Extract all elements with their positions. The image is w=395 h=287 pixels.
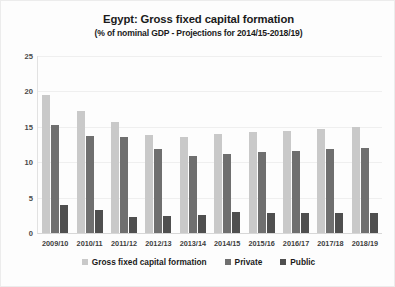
x-axis-tick-label: 2015/16 (248, 239, 274, 248)
bar (232, 212, 240, 233)
bar (95, 210, 103, 233)
bar-group: 2014/15 (210, 56, 244, 233)
y-axis-tick-label: 20 (25, 87, 33, 96)
bar-groups: 2009/102010/112011/122012/132013/142014/… (38, 56, 382, 233)
plot-area: 0510152025 2009/102010/112011/122012/132… (37, 56, 382, 234)
bar (60, 205, 68, 233)
legend-item[interactable]: Gross fixed capital formation (82, 257, 207, 267)
y-axis-tick-label: 0 (29, 229, 33, 238)
legend-swatch (280, 259, 286, 265)
bar (361, 148, 369, 233)
x-axis-tick-label: 2010/11 (77, 239, 103, 248)
chart-subtitle: (% of nominal GDP - Projections for 2014… (1, 27, 395, 40)
legend-label: Private (235, 257, 263, 267)
y-axis-tick-label: 5 (29, 193, 33, 202)
bar-group: 2012/13 (141, 56, 175, 233)
x-axis-tick-label: 2018/19 (352, 239, 378, 248)
chart-figure: Egypt: Gross fixed capital formation (% … (0, 0, 395, 287)
bar (51, 125, 59, 233)
x-axis-tick-label: 2011/12 (111, 239, 137, 248)
bar-group: 2009/10 (38, 56, 72, 233)
bar (249, 132, 257, 233)
bar-group: 2010/11 (72, 56, 106, 233)
bar (111, 122, 119, 233)
bar (292, 151, 300, 233)
x-axis-tick-label: 2016/17 (283, 239, 309, 248)
legend-label: Gross fixed capital formation (92, 257, 207, 267)
bar (335, 213, 343, 233)
y-axis-tick-label: 15 (25, 122, 33, 131)
bar-group: 2015/16 (244, 56, 278, 233)
bar-group: 2011/12 (107, 56, 141, 233)
bar (120, 137, 128, 233)
bar-group: 2017/18 (313, 56, 347, 233)
chart-title-block: Egypt: Gross fixed capital formation (% … (1, 12, 395, 40)
x-axis-tick-label: 2013/14 (180, 239, 206, 248)
x-axis-tick-label: 2009/10 (42, 239, 68, 248)
y-axis-tick-label: 10 (25, 158, 33, 167)
bar (42, 95, 50, 233)
bar (326, 149, 334, 233)
x-axis-tick-label: 2014/15 (214, 239, 240, 248)
bar-group: 2013/14 (176, 56, 210, 233)
bar-group: 2016/17 (279, 56, 313, 233)
bar (283, 131, 291, 233)
bar (223, 154, 231, 233)
x-axis-tick-label: 2012/13 (145, 239, 171, 248)
bar (301, 213, 309, 233)
x-axis-tick-label: 2017/18 (317, 239, 343, 248)
bar (317, 129, 325, 233)
bar (154, 149, 162, 233)
bar (163, 216, 171, 233)
bar (86, 136, 94, 233)
bar (258, 152, 266, 233)
bar (352, 127, 360, 233)
bar-group: 2018/19 (348, 56, 382, 233)
legend-swatch (225, 259, 231, 265)
page-title: Egypt: Gross fixed capital formation (1, 12, 395, 26)
bar (370, 213, 378, 233)
bar (189, 156, 197, 233)
bar (214, 134, 222, 233)
y-axis-tick-label: 25 (25, 52, 33, 61)
legend-label: Public (290, 257, 315, 267)
legend-item[interactable]: Private (225, 257, 263, 267)
bar (77, 111, 85, 233)
bar (145, 135, 153, 233)
bar (267, 213, 275, 233)
chart-legend: Gross fixed capital formationPrivatePubl… (1, 257, 395, 267)
bar (180, 137, 188, 233)
bar (198, 215, 206, 233)
bar (129, 217, 137, 233)
legend-item[interactable]: Public (280, 257, 315, 267)
legend-swatch (82, 259, 88, 265)
